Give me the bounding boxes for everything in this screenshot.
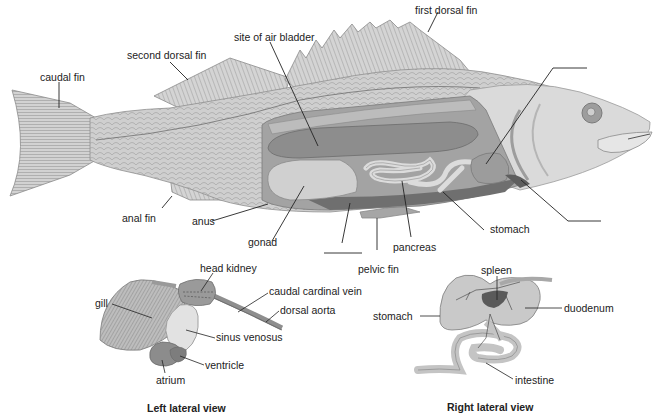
fish-body-group (10, 20, 652, 218)
label-spleen: spleen (481, 265, 512, 276)
caption-right-lateral-view: Right lateral view (447, 402, 533, 413)
label-caudal-cardinal-vein: caudal cardinal vein (269, 286, 362, 297)
left-lateral-illustration (100, 279, 282, 366)
label-head-kidney: head kidney (200, 263, 257, 274)
label-atrium: atrium (156, 375, 185, 386)
fish-illustration (0, 0, 663, 420)
label-duodenum: duodenum (564, 303, 614, 314)
fish-anatomy-diagram: first dorsal fin second dorsal fin site … (0, 0, 663, 420)
label-second-dorsal-fin: second dorsal fin (127, 50, 206, 61)
label-sinus-venosus: sinus venosus (216, 332, 283, 343)
label-stomach-right: stomach (373, 311, 413, 322)
label-pancreas: pancreas (393, 242, 436, 253)
label-anus: anus (192, 216, 215, 227)
label-anal-fin: anal fin (122, 213, 156, 224)
label-gonad: gonad (248, 237, 277, 248)
label-gill: gill (95, 298, 108, 309)
label-pelvic-fin: pelvic fin (358, 264, 399, 275)
label-intestine: intestine (515, 375, 554, 386)
label-site-of-air-bladder: site of air bladder (234, 32, 315, 43)
label-first-dorsal-fin: first dorsal fin (415, 5, 477, 16)
label-ventricle: ventricle (205, 360, 244, 371)
caption-left-lateral-view: Left lateral view (147, 403, 226, 414)
label-stomach-main: stomach (490, 224, 530, 235)
label-caudal-fin: caudal fin (40, 72, 85, 83)
right-lateral-illustration (418, 275, 552, 370)
label-dorsal-aorta: dorsal aorta (280, 305, 335, 316)
